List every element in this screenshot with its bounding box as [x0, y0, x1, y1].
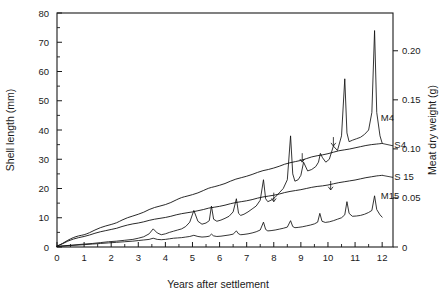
x-tick-label: 8	[271, 252, 276, 263]
y-tick-label: 70	[38, 37, 49, 48]
chart-canvas: 0123456789101112 01020304050607080 00.05…	[0, 0, 446, 300]
y-tick-label: 80	[38, 8, 49, 19]
x-tick-label: 2	[109, 252, 114, 263]
leader-s4	[382, 143, 393, 145]
series-labels: S4S 15M4M15	[381, 112, 414, 201]
series-label-m15: M15	[381, 190, 399, 201]
x-tick-label: 1	[81, 252, 86, 263]
y2-tick-label: 0	[402, 242, 407, 253]
annotation-arrows	[271, 137, 335, 202]
y-tick-label: 10	[38, 212, 49, 223]
figure-container: 0123456789101112 01020304050607080 00.05…	[0, 0, 446, 300]
x-tick-label: 12	[377, 252, 388, 263]
x-tick-label: 9	[298, 252, 303, 263]
plot-frame	[57, 13, 393, 247]
y-tick-label: 50	[38, 95, 49, 106]
curve-m15	[57, 196, 382, 247]
y2-tick-label: 0.05	[402, 192, 421, 203]
y-tick-label: 60	[38, 66, 49, 77]
x-tick-label: 3	[136, 252, 141, 263]
y-tick-label: 40	[38, 125, 49, 136]
curve-s15	[57, 175, 382, 246]
y-tick-label: 30	[38, 154, 49, 165]
x-axis-title: Years after settlement	[167, 278, 269, 290]
y-tick-label: 0	[44, 242, 49, 253]
x-tick-label: 0	[54, 252, 59, 263]
x-tick-label: 5	[190, 252, 195, 263]
arrow-m4-year10	[331, 137, 336, 146]
y-axis-left-title: Shell length (mm)	[4, 89, 16, 171]
series-label-s4: S4	[394, 139, 406, 150]
y-axis-right-title: Meat dry weight (g)	[426, 85, 438, 175]
series-label-m4: M4	[381, 112, 394, 123]
x-tick-label: 11	[350, 252, 360, 263]
arrow-m15-year10	[328, 181, 333, 190]
y-tick-label: 20	[38, 183, 49, 194]
y-axis-left-tick-labels: 01020304050607080	[38, 8, 49, 253]
leader-s15	[382, 175, 393, 177]
y2-tick-label: 0.20	[402, 45, 421, 56]
x-tick-label: 6	[217, 252, 222, 263]
x-tick-label: 10	[323, 252, 334, 263]
x-axis-tick-labels: 0123456789101112	[54, 252, 387, 263]
x-tick-label: 4	[163, 252, 168, 263]
plot-border	[57, 13, 393, 247]
y-axis-left-ticks	[57, 13, 62, 247]
x-tick-label: 7	[244, 252, 249, 263]
y2-tick-label: 0.15	[402, 94, 421, 105]
series-label-s15: S 15	[394, 171, 414, 182]
